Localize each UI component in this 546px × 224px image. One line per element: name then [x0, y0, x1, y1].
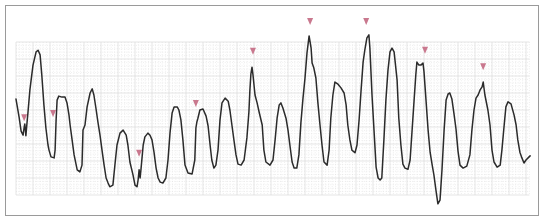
ecg-strip	[0, 0, 546, 224]
marker-arrow-icon	[422, 47, 428, 54]
marker-arrow-icon	[307, 18, 313, 25]
ecg-trace	[16, 35, 530, 204]
marker-arrow-icon	[250, 48, 256, 55]
marker-arrow-icon	[136, 150, 142, 157]
marker-arrow-icon	[363, 18, 369, 25]
grid-major-lines	[16, 42, 529, 195]
grid-minor-lines	[16, 42, 529, 195]
